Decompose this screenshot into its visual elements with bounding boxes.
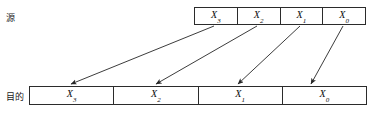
source-cell-2: X1 <box>281 8 324 24</box>
arrow-x2 <box>156 26 257 84</box>
arrow-x0 <box>311 26 343 84</box>
arrow-x1 <box>238 26 300 84</box>
source-cell-3: X0 <box>323 8 365 24</box>
destination-cell-0-value: X3 <box>67 89 77 102</box>
source-cell-0-value: X3 <box>211 10 221 23</box>
source-cell-2-value: X1 <box>297 10 307 23</box>
diagram-canvas: 源 目的 X3 X2 X1 X0 X3 X2 X1 X0 <box>0 0 375 117</box>
destination-cell-3: X0 <box>283 87 366 104</box>
source-cell-0: X3 <box>195 8 238 24</box>
source-row: X3 X2 X1 X0 <box>194 7 366 25</box>
destination-row: X3 X2 X1 X0 <box>29 86 367 105</box>
destination-cell-3-value: X0 <box>320 89 330 102</box>
destination-cell-2: X1 <box>199 87 283 104</box>
arrow-x3 <box>71 26 214 84</box>
source-row-label: 源 <box>6 11 15 24</box>
destination-row-label: 目的 <box>6 90 24 103</box>
source-cell-3-value: X0 <box>339 10 349 23</box>
destination-cell-1: X2 <box>114 87 198 104</box>
source-cell-1-value: X2 <box>254 10 264 23</box>
destination-cell-2-value: X1 <box>235 89 245 102</box>
destination-cell-1-value: X2 <box>151 89 161 102</box>
source-cell-1: X2 <box>238 8 281 24</box>
destination-cell-0: X3 <box>30 87 114 104</box>
